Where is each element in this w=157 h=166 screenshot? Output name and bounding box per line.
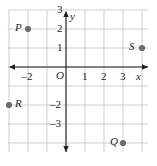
point-label-P: P bbox=[15, 22, 22, 33]
x-tick-label-3: 3 bbox=[120, 71, 126, 82]
data-point-S bbox=[139, 45, 145, 51]
data-point-Q bbox=[120, 140, 126, 146]
point-label-Q: Q bbox=[110, 136, 118, 147]
y-tick-label--2: –2 bbox=[50, 99, 61, 110]
y-tick-label--3: –3 bbox=[50, 118, 61, 129]
figure-background bbox=[0, 0, 157, 166]
coordinate-plane-figure: O–2123321–2–3xyPSRQ bbox=[0, 0, 157, 166]
y-tick-label-2: 2 bbox=[57, 23, 63, 34]
data-point-R bbox=[6, 102, 12, 108]
y-tick-label-1: 1 bbox=[57, 42, 63, 53]
x-axis-label: x bbox=[136, 71, 141, 82]
y-axis-label: y bbox=[70, 11, 75, 22]
data-point-P bbox=[25, 26, 31, 32]
y-tick-label-3: 3 bbox=[57, 4, 63, 15]
x-tick-label--2: –2 bbox=[22, 71, 33, 82]
x-tick-label-2: 2 bbox=[101, 71, 107, 82]
point-label-R: R bbox=[15, 98, 22, 109]
origin-label: O bbox=[56, 70, 64, 81]
plot-svg bbox=[0, 0, 157, 166]
x-tick-label-1: 1 bbox=[82, 71, 88, 82]
point-label-S: S bbox=[129, 41, 135, 52]
